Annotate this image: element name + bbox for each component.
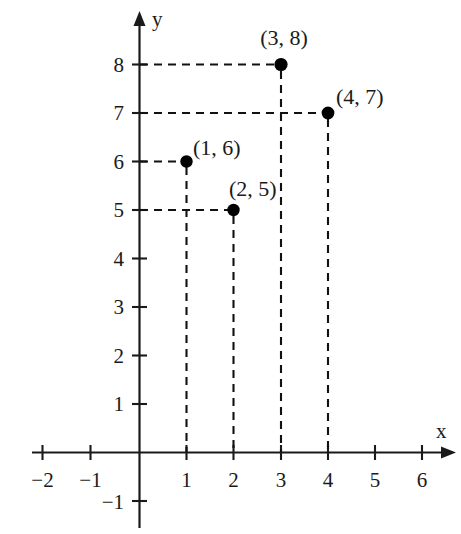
scatter-plot-svg: −2 −1 1 2 3 4 5 6 8 7 6 5 4 3 2 1 −1 y x (0, 0, 461, 534)
axis-names: y x (152, 7, 447, 443)
guide-lines-group (140, 65, 328, 453)
x-axis-label: x (436, 419, 447, 443)
y-axis-arrow-icon (134, 11, 146, 26)
point-label-3-8: (3, 8) (260, 25, 308, 50)
data-point-1[interactable] (180, 155, 192, 167)
x-tick-label-1: 1 (181, 468, 192, 492)
axes-group (32, 11, 456, 528)
y-tick-label-2: 2 (114, 344, 125, 368)
y-tick-label--1: −1 (102, 490, 124, 514)
point-labels: (1, 6) (2, 5) (3, 8) (4, 7) (193, 25, 384, 201)
y-axis-label: y (152, 7, 163, 31)
y-tick-label-7: 7 (114, 101, 125, 125)
x-tick-labels: −2 −1 1 2 3 4 5 6 (31, 468, 427, 492)
x-tick-label--1: −1 (79, 468, 101, 492)
x-axis-arrow-icon (441, 447, 456, 459)
coordinate-plane-figure: −2 −1 1 2 3 4 5 6 8 7 6 5 4 3 2 1 −1 y x (0, 0, 461, 534)
y-tick-label-8: 8 (114, 53, 125, 77)
y-tick-label-3: 3 (114, 295, 125, 319)
data-point-3[interactable] (274, 58, 287, 71)
x-tick-label-6: 6 (417, 468, 428, 492)
y-tick-label-4: 4 (114, 247, 125, 271)
x-tick-label-4: 4 (323, 468, 334, 492)
point-label-1-6: (1, 6) (193, 135, 241, 160)
y-tick-label-5: 5 (114, 198, 125, 222)
y-tick-labels: 8 7 6 5 4 3 2 1 −1 (102, 53, 125, 514)
data-point-4[interactable] (322, 107, 335, 120)
y-tick-label-6: 6 (114, 150, 125, 174)
x-tick-label-2: 2 (228, 468, 239, 492)
x-tick-label-3: 3 (276, 468, 287, 492)
data-point-2[interactable] (227, 204, 239, 216)
point-label-2-5: (2, 5) (229, 176, 277, 201)
x-tick-label-5: 5 (370, 468, 381, 492)
x-tick-label--2: −2 (31, 468, 53, 492)
point-label-4-7: (4, 7) (336, 84, 384, 109)
y-tick-label-1: 1 (114, 392, 125, 416)
